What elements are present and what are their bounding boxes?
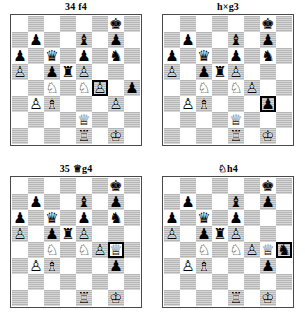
square-f2[interactable] <box>244 112 260 128</box>
square-e4[interactable]: ♘ <box>76 242 92 258</box>
square-b3[interactable]: ♙ <box>28 258 44 274</box>
square-f3[interactable] <box>244 258 260 274</box>
square-d6[interactable] <box>60 48 76 64</box>
square-b4[interactable] <box>28 242 44 258</box>
square-a6[interactable]: ♟ <box>164 210 180 226</box>
square-e2[interactable]: ♕ <box>228 112 244 128</box>
piece-white-pawn-b3[interactable]: ♙ <box>28 96 44 112</box>
square-g6[interactable] <box>260 210 276 226</box>
piece-black-pawn-a6[interactable]: ♟ <box>12 210 28 226</box>
piece-black-pawn-b7[interactable]: ♟ <box>180 194 196 210</box>
square-d6[interactable] <box>212 210 228 226</box>
square-a8[interactable] <box>164 16 180 32</box>
piece-black-pawn-a6[interactable]: ♟ <box>164 48 180 64</box>
square-e3[interactable] <box>228 96 244 112</box>
piece-white-king-g1[interactable]: ♔ <box>260 128 276 144</box>
square-e1[interactable]: ♖ <box>76 128 92 144</box>
square-c6[interactable]: ♛ <box>196 210 212 226</box>
square-f6[interactable] <box>92 210 108 226</box>
piece-white-rook-e1[interactable]: ♖ <box>76 290 92 306</box>
piece-black-queen-c6[interactable]: ♛ <box>196 48 212 64</box>
piece-black-pawn-c5[interactable]: ♟ <box>196 64 212 80</box>
square-b3[interactable]: ♙ <box>180 258 196 274</box>
piece-black-king-g8[interactable]: ♚ <box>108 16 124 32</box>
piece-black-rook-d5[interactable]: ♜ <box>60 64 76 80</box>
square-f3[interactable] <box>92 258 108 274</box>
piece-white-knight-e4[interactable]: ♘ <box>76 242 92 258</box>
square-f7[interactable] <box>92 194 108 210</box>
piece-white-knight-c4[interactable]: ♘ <box>44 80 60 96</box>
square-c4[interactable]: ♘ <box>44 80 60 96</box>
square-a5[interactable]: ♙ <box>12 64 28 80</box>
square-e8[interactable] <box>228 16 244 32</box>
piece-white-pawn-b3[interactable]: ♙ <box>180 96 196 112</box>
square-d1[interactable] <box>212 290 228 306</box>
square-g7[interactable]: ♟ <box>108 194 124 210</box>
square-d8[interactable] <box>212 178 228 194</box>
square-c8[interactable] <box>196 178 212 194</box>
piece-black-pawn-g7[interactable]: ♟ <box>260 194 276 210</box>
square-g8[interactable]: ♚ <box>108 178 124 194</box>
square-c5[interactable]: ♟ <box>196 64 212 80</box>
square-f3[interactable] <box>244 96 260 112</box>
square-b1[interactable] <box>28 128 44 144</box>
square-b5[interactable] <box>28 64 44 80</box>
piece-black-queen-c6[interactable]: ♛ <box>44 48 60 64</box>
piece-black-rook-d5[interactable]: ♜ <box>60 226 76 242</box>
square-b5[interactable] <box>28 226 44 242</box>
piece-black-bishop-e7[interactable]: ♝ <box>76 32 92 48</box>
square-e8[interactable] <box>228 178 244 194</box>
square-g4-highlighted[interactable]: ♕ <box>108 242 124 258</box>
square-a4[interactable] <box>12 80 28 96</box>
square-g3-highlighted[interactable]: ♟ <box>260 96 276 112</box>
square-h1[interactable] <box>276 128 292 144</box>
square-h6[interactable] <box>124 48 140 64</box>
square-b2[interactable] <box>28 112 44 128</box>
square-a8[interactable] <box>12 178 28 194</box>
square-c4[interactable]: ♘ <box>196 242 212 258</box>
square-g8[interactable]: ♚ <box>108 16 124 32</box>
square-h6[interactable] <box>124 210 140 226</box>
square-f1[interactable] <box>92 290 108 306</box>
square-a3[interactable] <box>12 258 28 274</box>
piece-black-king-g8[interactable]: ♚ <box>260 178 276 194</box>
square-b2[interactable] <box>180 112 196 128</box>
square-c6[interactable]: ♛ <box>196 48 212 64</box>
square-g2[interactable] <box>108 112 124 128</box>
square-f5[interactable] <box>244 64 260 80</box>
square-d2[interactable] <box>60 274 76 290</box>
piece-white-pawn-a5[interactable]: ♙ <box>164 226 180 242</box>
square-f2[interactable] <box>92 274 108 290</box>
square-h7[interactable] <box>276 32 292 48</box>
square-f2[interactable] <box>92 112 108 128</box>
piece-black-knight-g6[interactable]: ♞ <box>260 48 276 64</box>
square-c2[interactable] <box>196 112 212 128</box>
square-g1[interactable]: ♔ <box>108 290 124 306</box>
piece-white-bishop-c3[interactable]: ♗ <box>44 258 60 274</box>
square-f7[interactable] <box>244 194 260 210</box>
square-h4[interactable] <box>276 80 292 96</box>
square-g7[interactable]: ♟ <box>108 32 124 48</box>
square-g1[interactable]: ♔ <box>260 128 276 144</box>
piece-white-bishop-c3[interactable]: ♗ <box>44 96 60 112</box>
square-f6[interactable] <box>92 48 108 64</box>
square-f8[interactable] <box>244 16 260 32</box>
square-f7[interactable] <box>92 32 108 48</box>
square-h1[interactable] <box>124 290 140 306</box>
square-g3[interactable]: ♟ <box>108 258 124 274</box>
square-g5[interactable] <box>260 64 276 80</box>
square-g2[interactable] <box>260 274 276 290</box>
square-a3[interactable] <box>12 96 28 112</box>
square-a3[interactable] <box>164 258 180 274</box>
piece-white-knight-e4[interactable]: ♘ <box>76 80 92 96</box>
square-a7[interactable] <box>12 32 28 48</box>
square-g1[interactable]: ♔ <box>260 290 276 306</box>
square-c3[interactable]: ♗ <box>196 96 212 112</box>
square-f3[interactable] <box>92 96 108 112</box>
square-d8[interactable] <box>212 16 228 32</box>
piece-black-rook-d5[interactable]: ♜ <box>212 64 228 80</box>
square-e8[interactable] <box>76 178 92 194</box>
square-h3[interactable] <box>124 96 140 112</box>
square-f4-highlighted[interactable]: ♙ <box>92 80 108 96</box>
square-e5[interactable]: ♙ <box>76 64 92 80</box>
